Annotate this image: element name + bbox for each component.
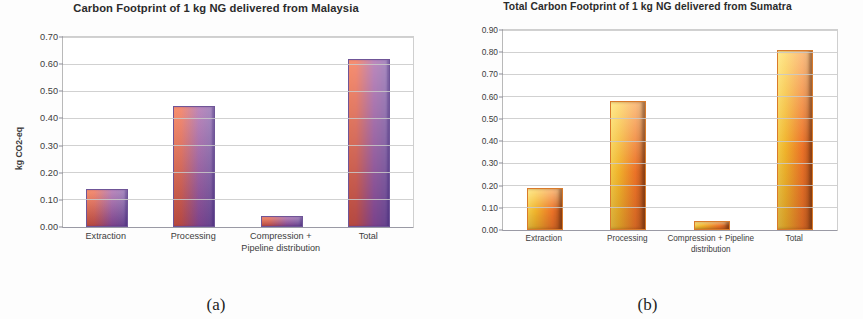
gridline bbox=[503, 30, 837, 31]
panel-caption-a: (a) bbox=[0, 295, 432, 315]
x-axis-line bbox=[63, 227, 413, 228]
y-tick-mark bbox=[499, 74, 503, 75]
gridline bbox=[63, 118, 413, 119]
y-tick-label: 0.10 bbox=[40, 195, 58, 205]
y-tick-label: 0.30 bbox=[482, 158, 498, 168]
y-tick-mark bbox=[499, 185, 503, 186]
gridline bbox=[503, 118, 837, 119]
chart-panel-a: Carbon Footprint of 1 kg NG delivered fr… bbox=[0, 0, 432, 319]
bar bbox=[173, 106, 215, 227]
gridline bbox=[63, 172, 413, 173]
x-tick-label: Processing bbox=[145, 230, 241, 242]
y-tick-mark bbox=[499, 118, 503, 119]
gridline bbox=[503, 141, 837, 142]
x-tick-label: Compression + Pipeline distribution bbox=[233, 230, 329, 255]
x-tick-label: Total bbox=[320, 230, 416, 242]
y-tick-mark bbox=[59, 118, 63, 119]
plot-area-a: 0.000.100.200.300.400.500.600.70 bbox=[62, 36, 414, 228]
x-tick-label: Total bbox=[748, 233, 840, 244]
y-tick-label: 0.80 bbox=[482, 47, 498, 57]
gridline bbox=[503, 52, 837, 53]
y-tick-label: 0.30 bbox=[40, 141, 58, 151]
y-tick-mark bbox=[499, 230, 503, 231]
y-tick-mark bbox=[499, 207, 503, 208]
x-tick-label: Extraction bbox=[58, 230, 154, 242]
gridline bbox=[63, 37, 413, 38]
gridline bbox=[503, 96, 837, 97]
y-tick-mark bbox=[59, 227, 63, 228]
y-tick-mark bbox=[59, 64, 63, 65]
y-tick-mark bbox=[499, 141, 503, 142]
chart-title-b: Total Carbon Footprint of 1 kg NG delive… bbox=[432, 1, 863, 12]
bar-group-b bbox=[503, 30, 837, 230]
y-tick-mark bbox=[59, 199, 63, 200]
x-axis-line bbox=[503, 230, 837, 231]
plot-area-b: 0.000.100.200.300.400.500.600.700.800.90 bbox=[502, 29, 838, 231]
y-tick-label: 0.70 bbox=[40, 32, 58, 42]
y-tick-label: 0.10 bbox=[482, 203, 498, 213]
y-tick-label: 0.20 bbox=[40, 168, 58, 178]
y-tick-mark bbox=[59, 172, 63, 173]
y-tick-label: 0.50 bbox=[40, 86, 58, 96]
gridline bbox=[63, 199, 413, 200]
bar bbox=[261, 216, 303, 227]
gridline bbox=[503, 185, 837, 186]
chart-title-a: Carbon Footprint of 1 kg NG delivered fr… bbox=[0, 2, 432, 14]
y-tick-mark bbox=[499, 96, 503, 97]
bar bbox=[527, 188, 563, 230]
y-tick-mark bbox=[59, 91, 63, 92]
gridline bbox=[63, 64, 413, 65]
gridline bbox=[503, 207, 837, 208]
y-tick-label: 0.50 bbox=[482, 114, 498, 124]
x-tick-label: Extraction bbox=[498, 233, 590, 244]
y-tick-label: 0.40 bbox=[482, 136, 498, 146]
y-tick-label: 0.00 bbox=[40, 222, 58, 232]
x-tick-label: Compression + Pipeline distribution bbox=[665, 233, 757, 255]
y-tick-mark bbox=[499, 30, 503, 31]
bar bbox=[610, 101, 646, 230]
y-tick-mark bbox=[499, 52, 503, 53]
chart-panel-b: Total Carbon Footprint of 1 kg NG delive… bbox=[432, 0, 863, 319]
y-tick-label: 0.00 bbox=[482, 225, 498, 235]
bar bbox=[86, 189, 128, 227]
y-tick-label: 0.60 bbox=[40, 59, 58, 69]
bar bbox=[348, 59, 390, 227]
y-axis-label-a: kg CO2-eq bbox=[14, 127, 24, 170]
y-tick-label: 0.60 bbox=[482, 92, 498, 102]
y-tick-label: 0.20 bbox=[482, 181, 498, 191]
figure-container: Carbon Footprint of 1 kg NG delivered fr… bbox=[0, 0, 863, 319]
panel-caption-b: (b) bbox=[432, 295, 863, 315]
gridline bbox=[63, 91, 413, 92]
y-tick-label: 0.70 bbox=[482, 69, 498, 79]
y-tick-mark bbox=[59, 37, 63, 38]
x-tick-label: Processing bbox=[581, 233, 673, 244]
gridline bbox=[63, 145, 413, 146]
y-tick-label: 0.40 bbox=[40, 113, 58, 123]
gridline bbox=[503, 163, 837, 164]
y-tick-mark bbox=[59, 145, 63, 146]
gridline bbox=[503, 74, 837, 75]
y-tick-label: 0.90 bbox=[482, 25, 498, 35]
y-tick-mark bbox=[499, 163, 503, 164]
